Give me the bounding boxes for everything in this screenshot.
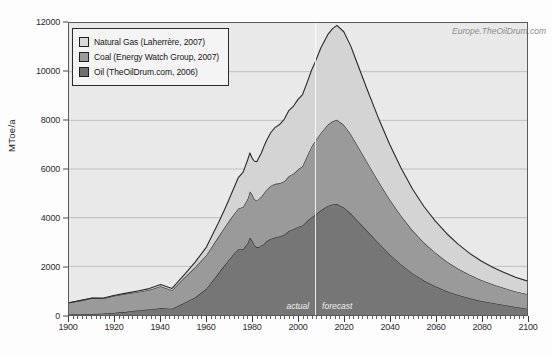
x-minor-tick: [307, 316, 308, 319]
x-minor-tick: [275, 316, 276, 319]
x-minor-tick: [293, 316, 294, 319]
x-minor-tick: [215, 316, 216, 319]
x-minor-tick: [395, 316, 396, 319]
x-minor-tick: [280, 316, 281, 319]
legend-item[interactable]: Natural Gas (Laherrère, 2007): [79, 35, 219, 49]
x-minor-tick: [413, 316, 414, 319]
x-minor-tick: [316, 316, 317, 319]
y-tick-label: 10000: [36, 66, 60, 76]
x-minor-tick: [201, 316, 202, 319]
x-tick-label: 2020: [334, 322, 353, 332]
x-minor-tick: [496, 316, 497, 319]
legend-item[interactable]: Coal (Energy Watch Group, 2007): [79, 50, 219, 64]
x-minor-tick: [220, 316, 221, 319]
legend-swatch-icon: [79, 37, 89, 47]
legend-item-label: Natural Gas (Laherrère, 2007): [94, 37, 205, 47]
x-minor-tick: [100, 316, 101, 319]
x-minor-tick: [137, 316, 138, 319]
x-minor-tick: [422, 316, 423, 319]
x-minor-tick: [238, 316, 239, 319]
x-minor-tick: [109, 316, 110, 319]
x-minor-tick: [441, 316, 442, 319]
x-minor-tick: [468, 316, 469, 319]
x-minor-tick: [367, 316, 368, 319]
y-tick-label: 12000: [36, 17, 60, 27]
x-minor-tick: [349, 316, 350, 319]
y-tick-label: 0: [55, 311, 60, 321]
x-minor-tick: [270, 316, 271, 319]
x-minor-tick: [408, 316, 409, 319]
x-minor-tick: [381, 316, 382, 319]
x-minor-tick: [358, 316, 359, 319]
x-minor-tick: [197, 316, 198, 319]
x-tick-label: 1940: [150, 322, 169, 332]
x-minor-tick: [243, 316, 244, 319]
x-minor-tick: [123, 316, 124, 319]
x-minor-tick: [261, 316, 262, 319]
x-minor-tick: [266, 316, 267, 319]
x-minor-tick: [303, 316, 304, 319]
x-minor-tick: [146, 316, 147, 319]
x-minor-tick: [459, 316, 460, 319]
x-minor-tick: [211, 316, 212, 319]
x-minor-tick: [431, 316, 432, 319]
x-minor-tick: [385, 316, 386, 319]
annotation-forecast: forecast: [322, 301, 352, 311]
x-minor-tick: [491, 316, 492, 319]
x-minor-tick: [464, 316, 465, 319]
x-minor-tick: [82, 316, 83, 319]
x-minor-tick: [174, 316, 175, 319]
actual-forecast-divider: [315, 23, 316, 315]
x-minor-tick: [399, 316, 400, 319]
x-minor-tick: [188, 316, 189, 319]
x-minor-tick: [96, 316, 97, 319]
x-tick-label: 2060: [426, 322, 445, 332]
legend-swatch-icon: [79, 52, 89, 62]
x-minor-tick: [132, 316, 133, 319]
x-minor-tick: [229, 316, 230, 319]
x-minor-tick: [510, 316, 511, 319]
x-minor-tick: [183, 316, 184, 319]
x-minor-tick: [330, 316, 331, 319]
x-minor-tick: [353, 316, 354, 319]
y-tick-label: 4000: [41, 213, 60, 223]
x-minor-tick: [289, 316, 290, 319]
x-minor-tick: [321, 316, 322, 319]
y-axis: 020004000600080001000012000: [0, 0, 68, 354]
x-minor-tick: [505, 316, 506, 319]
x-tick-label: 2100: [518, 322, 537, 332]
x-minor-tick: [91, 316, 92, 319]
x-minor-tick: [77, 316, 78, 319]
x-minor-tick: [335, 316, 336, 319]
legend-swatch-icon: [79, 67, 89, 77]
x-minor-tick: [500, 316, 501, 319]
x-minor-tick: [454, 316, 455, 319]
x-tick-label: 1920: [104, 322, 123, 332]
legend-item[interactable]: Oil (TheOilDrum.com, 2006): [79, 65, 219, 79]
x-minor-tick: [178, 316, 179, 319]
x-minor-tick: [450, 316, 451, 319]
x-minor-tick: [142, 316, 143, 319]
x-minor-tick: [105, 316, 106, 319]
x-minor-tick: [362, 316, 363, 319]
x-minor-tick: [326, 316, 327, 319]
x-minor-tick: [247, 316, 248, 319]
x-minor-tick: [418, 316, 419, 319]
x-minor-tick: [477, 316, 478, 319]
x-minor-tick: [487, 316, 488, 319]
watermark-label: Europe.TheOilDrum.com: [452, 26, 546, 36]
x-minor-tick: [372, 316, 373, 319]
x-minor-tick: [339, 316, 340, 319]
y-axis-title: MToe/a: [6, 119, 17, 152]
legend-item-label: Oil (TheOilDrum.com, 2006): [94, 67, 198, 77]
x-minor-tick: [445, 316, 446, 319]
legend-item-label: Coal (Energy Watch Group, 2007): [94, 52, 219, 62]
x-minor-tick: [86, 316, 87, 319]
x-minor-tick: [284, 316, 285, 319]
x-minor-tick: [427, 316, 428, 319]
y-tick-label: 2000: [41, 262, 60, 272]
x-minor-tick: [257, 316, 258, 319]
x-minor-tick: [523, 316, 524, 319]
x-minor-tick: [376, 316, 377, 319]
y-tick-label: 6000: [41, 164, 60, 174]
